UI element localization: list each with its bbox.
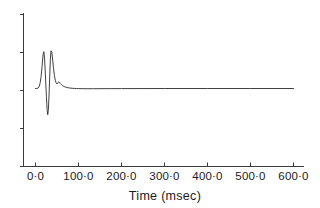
- x-tick-label: 100·0: [63, 170, 93, 182]
- x-tick-label: 500·0: [235, 170, 265, 182]
- x-axis-title: Time (msec): [129, 189, 201, 203]
- chart-canvas: 0·0 100·0 200·0 300·0 400·0 500·0 600·0 …: [0, 0, 320, 208]
- x-axis-tick-labels: 0·0 100·0 200·0 300·0 400·0 500·0 600·0: [27, 170, 309, 182]
- x-tick-label: 400·0: [192, 170, 222, 182]
- data-trace-line: [36, 51, 294, 115]
- y-axis-ticks: [20, 15, 24, 167]
- x-tick-label: 600·0: [278, 170, 308, 182]
- x-tick-label: 300·0: [149, 170, 179, 182]
- x-tick-label: 200·0: [106, 170, 136, 182]
- x-axis-ticks: [36, 163, 294, 167]
- chart-figure: 0·0 100·0 200·0 300·0 400·0 500·0 600·0 …: [0, 0, 320, 208]
- x-tick-label: 0·0: [27, 170, 44, 182]
